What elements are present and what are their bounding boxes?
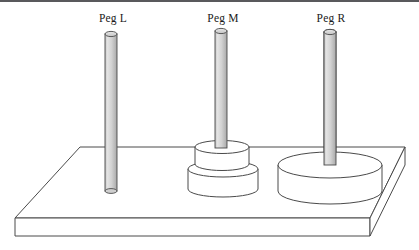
peg-r-label: Peg R [317,12,346,25]
peg-m-label: Peg M [207,12,238,25]
peg-m-group[interactable]: Peg M [188,12,258,197]
tower-of-hanoi-figure: Peg L Peg R [0,0,419,250]
base-front-face [15,218,370,236]
peg-l-label: Peg L [99,12,127,25]
peg-m-top-cap [215,28,227,33]
peg-l-bottom-cap [105,189,117,194]
hanoi-diagram-canvas: Peg L Peg R [0,0,419,250]
peg-l-top-cap [105,31,117,36]
peg-m-shaft[interactable] [215,31,227,148]
peg-l-shaft[interactable] [105,34,117,191]
peg-r-shaft-upper[interactable] [324,32,336,165]
peg-r-group[interactable]: Peg R [278,12,382,204]
peg-r-top-cap-front [324,29,336,34]
